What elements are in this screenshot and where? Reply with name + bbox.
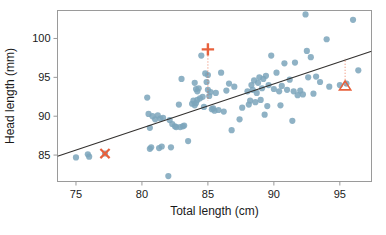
- axes-layer: 7580859095859095100: [32, 32, 346, 199]
- data-point: [276, 88, 282, 94]
- data-layer: [58, 11, 372, 179]
- data-point: [304, 48, 310, 54]
- data-point: [247, 98, 253, 104]
- data-point: [198, 52, 204, 58]
- data-point: [305, 74, 311, 80]
- x-tick-label: 95: [334, 188, 346, 200]
- data-point: [226, 80, 232, 86]
- y-tick-label: 85: [38, 149, 50, 161]
- data-point: [86, 154, 92, 160]
- data-point: [255, 80, 261, 86]
- scatter-plot-figure: 7580859095859095100Total length (cm)Head…: [0, 0, 386, 235]
- data-point: [300, 91, 306, 97]
- data-point: [350, 17, 356, 23]
- data-point: [218, 70, 224, 76]
- data-point: [258, 97, 264, 103]
- data-point: [317, 79, 323, 85]
- x-tick-label: 75: [70, 188, 82, 200]
- data-point: [313, 73, 319, 79]
- data-point: [268, 52, 274, 58]
- data-point: [264, 103, 270, 109]
- x-tick-label: 80: [136, 188, 148, 200]
- data-point: [289, 118, 295, 124]
- data-point: [181, 122, 187, 128]
- data-point: [324, 36, 330, 42]
- regression-line: [58, 51, 372, 156]
- data-point: [279, 83, 285, 89]
- y-tick-label: 100: [32, 32, 50, 44]
- data-point: [192, 80, 198, 86]
- data-point: [302, 11, 308, 17]
- data-point: [148, 144, 154, 150]
- data-point: [277, 102, 283, 108]
- data-point: [281, 60, 287, 66]
- data-point: [168, 144, 174, 150]
- data-point: [159, 143, 165, 149]
- data-point: [213, 90, 219, 96]
- data-point: [284, 87, 290, 93]
- y-axis-title: Head length (mm): [3, 48, 17, 144]
- data-point: [271, 86, 277, 92]
- data-point: [273, 70, 279, 76]
- x-tick-label: 85: [202, 188, 214, 200]
- data-point: [355, 67, 361, 73]
- data-point: [178, 76, 184, 82]
- x-axis-title: Total length (cm): [170, 204, 259, 218]
- data-point: [185, 138, 191, 144]
- data-point: [203, 79, 209, 85]
- y-tick-label: 95: [38, 71, 50, 83]
- data-point: [236, 116, 242, 122]
- data-point: [326, 84, 332, 90]
- data-point: [221, 108, 227, 114]
- data-point: [176, 101, 182, 107]
- data-point: [263, 73, 269, 79]
- data-point: [308, 54, 314, 60]
- data-point: [231, 84, 237, 90]
- data-point: [196, 85, 202, 91]
- plot-canvas: 7580859095859095100Total length (cm)Head…: [0, 0, 386, 235]
- data-point: [252, 99, 258, 105]
- data-point: [73, 154, 79, 160]
- x-tick-label: 90: [268, 188, 280, 200]
- data-point: [165, 173, 171, 179]
- data-point: [262, 112, 268, 118]
- y-tick-label: 90: [38, 110, 50, 122]
- data-point: [144, 94, 150, 100]
- data-point: [200, 94, 206, 100]
- data-point: [215, 107, 221, 113]
- series-possums: [73, 11, 362, 179]
- data-point: [292, 59, 298, 65]
- data-point: [229, 127, 235, 133]
- annotation-x: [100, 149, 109, 158]
- data-point: [223, 87, 229, 93]
- data-point: [239, 105, 245, 111]
- data-point: [310, 91, 316, 97]
- data-point: [207, 89, 213, 95]
